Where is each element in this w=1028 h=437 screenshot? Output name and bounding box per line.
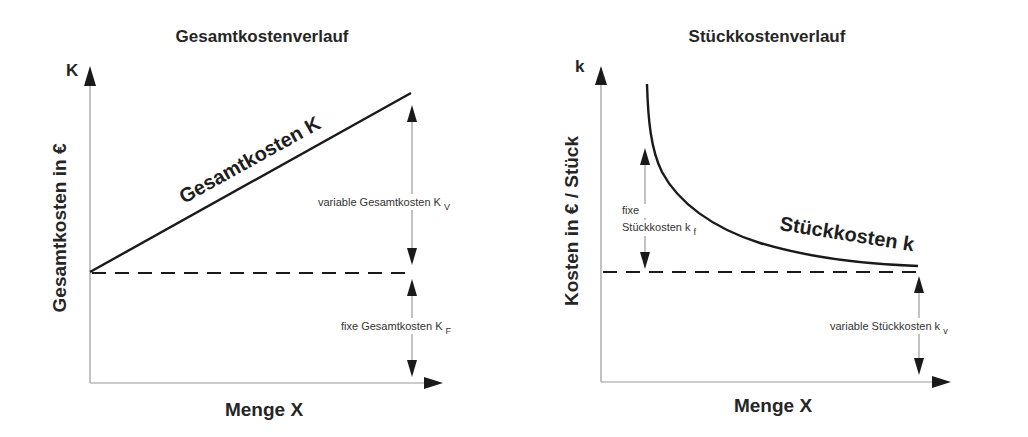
left-chart: Gesamtkostenverlauf K Gesamtkosten in € … [49, 27, 520, 420]
right-y-axis-label: Kosten in € / Stück [561, 136, 582, 306]
fixed-cost-up-arrow-icon [407, 279, 417, 296]
unit-cost-label: Stückkosten k [778, 212, 916, 255]
right-x-axis-arrow-icon [932, 376, 951, 388]
left-chart-title: Gesamtkostenverlauf [176, 27, 349, 46]
variable-unit-cost-up-arrow-icon [914, 276, 924, 293]
left-x-axis-arrow-icon [424, 377, 443, 389]
total-cost-label: Gesamtkosten K [175, 111, 324, 207]
left-y-axis-symbol: K [66, 61, 79, 80]
fixed-unit-cost-up-arrow-icon [640, 148, 650, 165]
variable-cost-up-arrow-icon [407, 105, 417, 122]
fixed-cost-down-arrow-icon [407, 360, 417, 377]
cost-diagrams: Gesamtkostenverlauf K Gesamtkosten in € … [0, 0, 1028, 437]
right-chart: Stückkostenverlauf k Kosten in € / Stück… [561, 27, 978, 416]
left-y-axis-label: Gesamtkosten in € [49, 143, 70, 312]
fixed-unit-cost-down-arrow-icon [640, 252, 650, 269]
fixed-unit-cost-label-line1: fixe [622, 204, 639, 216]
right-y-axis-arrow-icon [595, 66, 607, 85]
variable-cost-down-arrow-icon [407, 248, 417, 265]
total-cost-line [90, 93, 411, 272]
variable-unit-cost-down-arrow-icon [914, 358, 924, 375]
right-chart-title: Stückkostenverlauf [689, 27, 846, 46]
right-y-axis-symbol: k [575, 57, 585, 76]
left-y-axis-arrow-icon [84, 66, 96, 86]
right-x-axis-label: Menge X [734, 395, 812, 416]
left-x-axis-label: Menge X [225, 399, 303, 420]
